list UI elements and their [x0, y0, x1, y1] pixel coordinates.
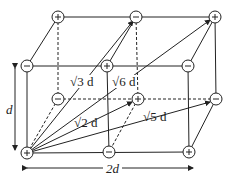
- label-height-d: d: [6, 103, 13, 116]
- label-sqrt5d: √5 d: [143, 110, 166, 123]
- charge-box-diagram: [0, 0, 236, 179]
- label-sqrt3d: √3 d: [70, 75, 93, 88]
- label-width-2d: 2d: [103, 162, 122, 175]
- label-sqrt6d: √6 d: [112, 75, 135, 88]
- label-sqrt2d: √2 d: [74, 116, 97, 129]
